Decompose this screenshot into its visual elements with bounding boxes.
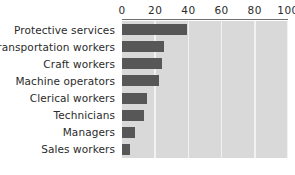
bar-transportation-workers [122,41,164,52]
category-label-technicians: Technicians [54,109,115,121]
bar-sales-workers [122,144,130,155]
gridline-60 [221,21,223,158]
bar-clerical-workers [122,93,147,104]
gridline-40 [188,21,190,158]
gridline-100 [287,21,288,158]
bar-machine-operators [122,75,159,86]
plot-area [122,21,288,158]
bar-managers [122,127,135,138]
category-labels: Protective servicesTransportation worker… [0,21,119,158]
gridline-80 [254,21,256,158]
category-label-sales-workers: Sales workers [41,143,115,155]
category-label-managers: Managers [63,126,115,138]
category-label-protective-services: Protective services [14,24,115,36]
x-tick-label-20: 20 [148,4,162,17]
bar-protective-services [122,24,187,35]
x-tick-label-80: 80 [248,4,262,17]
bar-craft-workers [122,58,162,69]
x-tick-label-100: 100 [277,4,295,17]
category-label-clerical-workers: Clerical workers [30,92,115,104]
x-axis-line [122,19,288,20]
x-tick-label-0: 0 [118,4,125,17]
category-label-machine-operators: Machine operators [15,75,115,87]
bar-technicians [122,110,144,121]
x-tick-label-60: 60 [214,4,228,17]
bar-chart: 020406080100 Protective servicesTranspor… [0,0,295,175]
x-tick-label-40: 40 [181,4,195,17]
category-label-craft-workers: Craft workers [43,58,115,70]
x-axis-tick-labels: 020406080100 [0,4,295,18]
category-label-transportation-workers: Transportation workers [0,41,115,53]
